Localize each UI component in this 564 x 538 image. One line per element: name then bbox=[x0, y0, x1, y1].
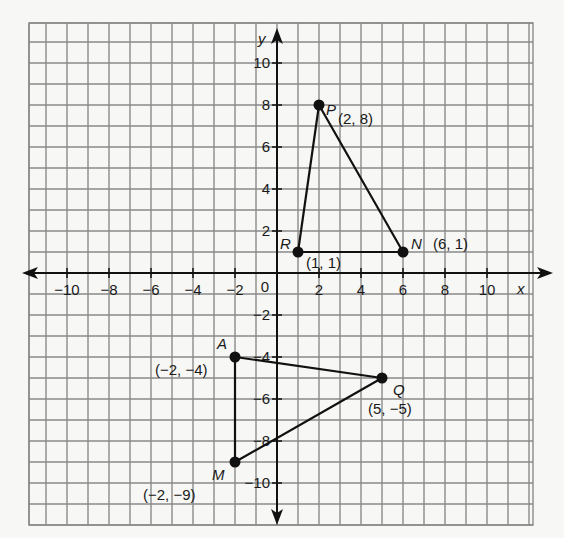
point-label-M: M bbox=[212, 466, 225, 483]
coord-label-Q: (5, −5) bbox=[368, 400, 412, 417]
coordinate-plane: −10−8−6−4−2246810108642−2−4−6−8−10 y x 0… bbox=[0, 0, 564, 538]
y-tick-label: −6 bbox=[253, 390, 270, 407]
coord-label-P: (2, 8) bbox=[338, 110, 373, 127]
y-tick-label: 8 bbox=[262, 96, 270, 113]
y-tick-label: 2 bbox=[262, 222, 270, 239]
y-axis-label: y bbox=[257, 30, 267, 47]
point-R bbox=[293, 247, 304, 258]
x-tick-label: 8 bbox=[441, 281, 449, 298]
x-tick-label: −2 bbox=[226, 281, 243, 298]
point-label-R: R bbox=[280, 235, 291, 252]
x-tick-label: −10 bbox=[54, 281, 79, 298]
y-tick-label: 6 bbox=[262, 138, 270, 155]
coord-label-N: (6, 1) bbox=[433, 235, 468, 252]
coord-label-M: (−2, −9) bbox=[143, 486, 196, 503]
x-tick-label: 6 bbox=[399, 281, 407, 298]
y-tick-label: −2 bbox=[253, 306, 270, 323]
point-label-Q: Q bbox=[393, 381, 405, 398]
y-tick-label: 10 bbox=[253, 54, 270, 71]
y-tick-label: 4 bbox=[262, 180, 270, 197]
x-tick-label: −8 bbox=[100, 281, 117, 298]
x-tick-label: −4 bbox=[184, 281, 201, 298]
point-M bbox=[230, 457, 241, 468]
point-label-A: A bbox=[216, 335, 227, 352]
x-tick-label: −6 bbox=[142, 281, 159, 298]
axes bbox=[22, 28, 553, 525]
point-label-N: N bbox=[411, 235, 422, 252]
point-label-P: P bbox=[326, 101, 336, 118]
point-N bbox=[398, 247, 409, 258]
x-axis-label: x bbox=[516, 280, 525, 297]
coord-label-A: (−2, −4) bbox=[155, 361, 208, 378]
x-tick-label: 10 bbox=[479, 281, 496, 298]
x-tick-label: 4 bbox=[357, 281, 365, 298]
origin-label: 0 bbox=[261, 278, 269, 295]
point-P bbox=[314, 100, 325, 111]
x-tick-label: 2 bbox=[315, 281, 323, 298]
point-Q bbox=[377, 373, 388, 384]
triangle-PNR bbox=[298, 105, 403, 252]
point-A bbox=[230, 352, 241, 363]
coord-label-R: (1, 1) bbox=[306, 254, 341, 271]
y-tick-label: −10 bbox=[245, 474, 270, 491]
